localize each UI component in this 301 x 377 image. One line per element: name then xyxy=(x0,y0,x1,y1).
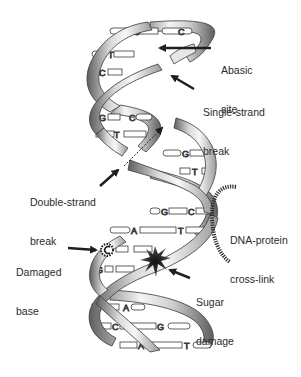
dna-protein-crosslink-label: DNA-protein cross-link xyxy=(230,208,288,299)
base-pair-8: G C xyxy=(150,207,208,217)
sugar-damage-label-line2: damage xyxy=(196,335,234,348)
dna-protein-crosslink-label-line2: cross-link xyxy=(230,273,288,286)
svg-text:C: C xyxy=(129,113,136,123)
dna-protein-crosslink-label-line1: DNA-protein xyxy=(230,234,288,247)
single-strand-break-arrow-icon xyxy=(172,76,194,89)
svg-text:G: G xyxy=(161,207,168,217)
sugar-damage-label: Sugar damage xyxy=(196,270,234,361)
damaged-base-label-line2: base xyxy=(16,305,62,318)
double-strand-break-label-line1: Double-strand xyxy=(30,196,96,209)
base-pair-10 xyxy=(116,246,152,252)
damaged-base-label: Damaged base xyxy=(16,240,62,331)
single-strand-break-label-line2: break xyxy=(203,145,265,158)
svg-text:T: T xyxy=(178,226,184,236)
svg-text:C: C xyxy=(188,207,195,217)
single-strand-break-label-line1: Single-strand xyxy=(203,106,265,119)
svg-text:G: G xyxy=(157,322,164,332)
svg-text:T: T xyxy=(192,167,198,177)
svg-text:A: A xyxy=(123,303,129,313)
abasic-site-label-line1: Abasic xyxy=(221,64,253,77)
sugar-damage-arrow-icon xyxy=(170,270,190,278)
base-pair-9: A T xyxy=(110,226,204,236)
svg-text:T: T xyxy=(184,341,190,351)
damaged-base-label-line1: Damaged xyxy=(16,266,62,279)
svg-text:G: G xyxy=(182,149,189,159)
svg-text:C: C xyxy=(178,27,185,37)
sugar-damage-label-line1: Sugar xyxy=(196,296,234,309)
svg-text:A: A xyxy=(131,226,137,236)
double-strand-break-arrow-icon xyxy=(100,170,118,186)
base-pair-13: C G xyxy=(96,322,190,332)
damaged-base-marker xyxy=(101,244,113,256)
single-strand-break-label: Single-strand break xyxy=(203,80,265,171)
